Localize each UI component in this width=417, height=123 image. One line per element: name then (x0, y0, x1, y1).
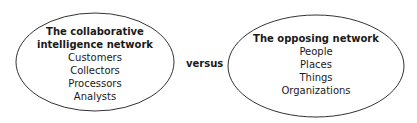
list-item: People (228, 45, 404, 58)
list-item: Places (228, 58, 404, 71)
opposing-network-node: The opposing network People Places Thing… (228, 32, 404, 97)
collaborative-network-title-line-2: intelligence network (16, 38, 174, 51)
collaborative-network-title-line-1: The collaborative (16, 25, 174, 38)
opposing-network-title: The opposing network (228, 32, 404, 45)
list-item: Analysts (16, 90, 174, 103)
collaborative-network-node: The collaborative intelligence network C… (16, 25, 174, 103)
list-item: Processors (16, 77, 174, 90)
list-item: Things (228, 71, 404, 84)
list-item: Organizations (228, 84, 404, 97)
versus-label: versus (186, 58, 223, 69)
list-item: Customers (16, 51, 174, 64)
list-item: Collectors (16, 64, 174, 77)
